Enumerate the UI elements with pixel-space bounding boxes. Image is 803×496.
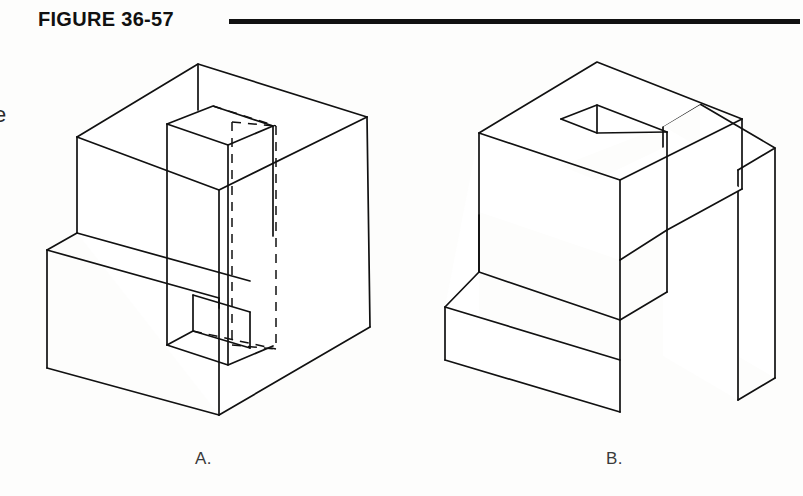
figure-page: FIGURE 36-57 e bbox=[0, 0, 803, 496]
subfigure-a-wireframe-cube bbox=[47, 64, 370, 415]
subfigure-b-solid-block bbox=[445, 62, 775, 412]
technical-drawing-canvas bbox=[0, 0, 803, 496]
subfigure-caption-b: B. bbox=[606, 449, 623, 469]
subfigure-caption-a: A. bbox=[195, 449, 212, 469]
block-b-front-step-face bbox=[445, 307, 620, 412]
